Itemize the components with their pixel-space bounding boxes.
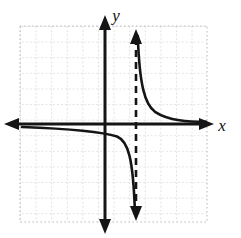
y-axis-label: y	[110, 6, 120, 25]
x-axis-arrow-left	[4, 118, 19, 130]
y-axis-arrow-down	[99, 219, 111, 234]
x-axis-label: x	[217, 116, 226, 135]
y-axis-arrow-up	[99, 15, 111, 30]
graph-figure: x y	[0, 0, 241, 238]
coordinate-plane-svg: x y	[0, 0, 241, 238]
